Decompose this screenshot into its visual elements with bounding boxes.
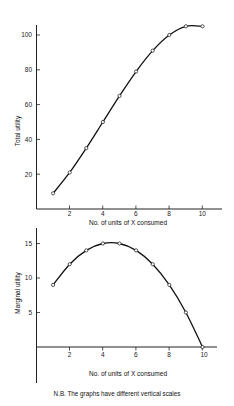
data-point-marker	[118, 94, 121, 97]
marginal-utility-line	[53, 243, 202, 347]
data-point-marker	[68, 263, 71, 266]
y-tick-label: 15	[25, 240, 33, 247]
marginal-utility-markers	[52, 242, 205, 349]
y-tick-label: 60	[25, 101, 33, 108]
total-utility-chart: 20 40 60 80 100 2 4 6 8 10 No. of units …	[14, 25, 222, 226]
data-point-marker	[135, 70, 138, 73]
y-ticks	[37, 244, 41, 313]
data-point-marker	[85, 147, 88, 150]
x-tick-label: 8	[167, 351, 171, 358]
y-axis-label: Marginal utility	[14, 271, 22, 313]
x-tick-label: 10	[199, 210, 207, 217]
data-point-marker	[168, 283, 171, 286]
y-tick-label: 40	[25, 136, 33, 143]
total-utility-line	[53, 26, 202, 194]
footnote: N.B. The graphs have different vertical …	[54, 390, 181, 398]
data-point-marker	[118, 242, 121, 245]
y-tick-label: 80	[25, 66, 33, 73]
data-point-marker	[151, 263, 154, 266]
marginal-utility-chart: 5 10 15 2 4 6 8 10 No. of units of X con…	[14, 228, 217, 383]
y-ticks	[37, 35, 41, 174]
x-tick-label: 2	[68, 210, 72, 217]
utility-figure: 20 40 60 80 100 2 4 6 8 10 No. of units …	[0, 0, 234, 406]
x-tick-label: 2	[68, 351, 72, 358]
x-axis-label: No. of units of X consumed	[89, 219, 167, 226]
data-point-marker	[168, 33, 171, 36]
x-tick-label: 8	[167, 210, 171, 217]
data-point-marker	[201, 25, 204, 28]
y-tick-label: 20	[25, 171, 33, 178]
x-ticks	[70, 347, 203, 351]
y-tick-label: 10	[25, 274, 33, 281]
x-tick-label: 6	[134, 351, 138, 358]
y-axis-label: Total utility	[14, 115, 22, 146]
x-tick-label: 4	[101, 351, 105, 358]
x-ticks	[70, 206, 203, 210]
data-point-marker	[85, 249, 88, 252]
data-point-marker	[184, 311, 187, 314]
data-point-marker	[151, 49, 154, 52]
data-point-marker	[101, 242, 104, 245]
data-point-marker	[68, 171, 71, 174]
x-tick-label: 10	[200, 351, 208, 358]
total-utility-markers	[52, 25, 205, 195]
data-point-marker	[201, 345, 204, 348]
data-point-marker	[52, 283, 55, 286]
x-tick-label: 4	[101, 210, 105, 217]
data-point-marker	[101, 120, 104, 123]
data-point-marker	[184, 25, 187, 28]
y-tick-label: 5	[28, 309, 32, 316]
y-tick-label: 100	[21, 31, 32, 38]
data-point-marker	[52, 192, 55, 195]
x-tick-label: 6	[134, 210, 138, 217]
x-axis-label: No. of units of X consumed	[89, 370, 167, 377]
data-point-marker	[135, 249, 138, 252]
